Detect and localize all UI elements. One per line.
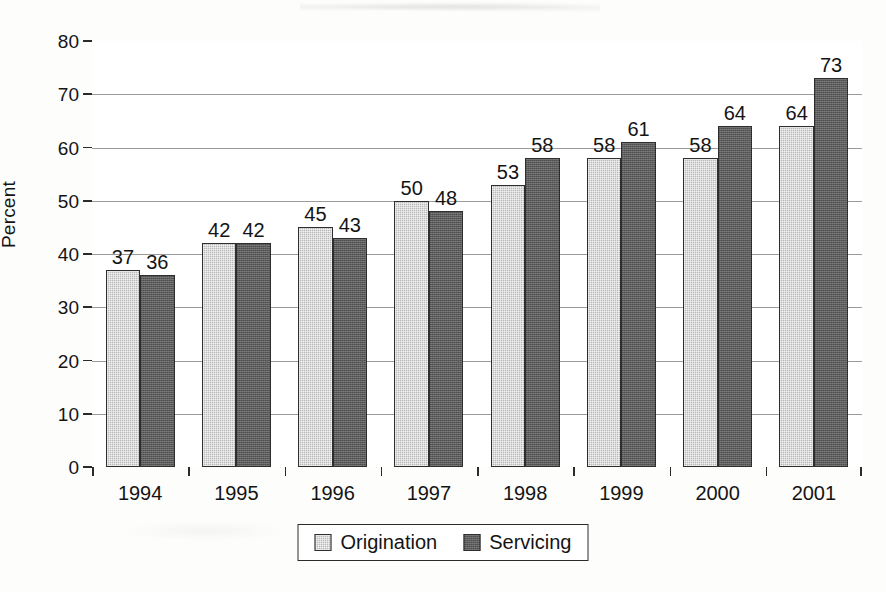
- bar-value-label: 36: [146, 252, 168, 272]
- bar-servicing-1997[interactable]: [429, 211, 463, 467]
- y-axis-tick: [83, 413, 92, 415]
- bar-servicing-1995[interactable]: [236, 243, 270, 467]
- x-axis-tick: [92, 467, 94, 476]
- bar-origination-1996[interactable]: [298, 227, 332, 467]
- bar-servicing-1994[interactable]: [140, 275, 174, 467]
- x-axis-tick-label-2001: 2001: [792, 483, 837, 503]
- legend-swatch-origination-icon: [315, 534, 332, 551]
- x-axis-tick: [477, 467, 479, 476]
- x-axis-tick: [766, 467, 768, 476]
- bar-value-label: 50: [401, 178, 423, 198]
- bar-origination-1998[interactable]: [491, 185, 525, 467]
- bar-origination-1994[interactable]: [106, 270, 140, 467]
- x-axis-tick: [285, 467, 287, 476]
- y-axis-tick: [83, 466, 92, 468]
- x-axis-tick: [381, 467, 383, 476]
- y-axis-tick: [83, 93, 92, 95]
- chart-legend: Origination Servicing: [298, 524, 589, 561]
- y-axis-tick: [83, 360, 92, 362]
- y-axis-tick-label: 40: [58, 245, 79, 264]
- bar-origination-2001[interactable]: [779, 126, 813, 467]
- bar-origination-1999[interactable]: [587, 158, 621, 467]
- plot-area: 0102030405060708037361994424219954543199…: [92, 41, 862, 467]
- bar-servicing-1998[interactable]: [525, 158, 559, 467]
- bar-value-label: 37: [112, 247, 134, 267]
- bar-value-label: 48: [435, 188, 457, 208]
- bar-value-label: 42: [242, 220, 264, 240]
- bar-servicing-2001[interactable]: [814, 78, 848, 467]
- bar-value-label: 45: [304, 204, 326, 224]
- x-axis-tick: [860, 467, 862, 476]
- y-axis-tick: [83, 306, 92, 308]
- scan-artifact-top: [300, 2, 600, 12]
- bar-chart-figure: Percent 01020304050607080373619944242199…: [0, 0, 886, 592]
- x-axis-tick-label-1997: 1997: [407, 483, 452, 503]
- bar-value-label: 43: [339, 215, 361, 235]
- bar-value-label: 64: [786, 103, 808, 123]
- y-axis-tick-label: 30: [58, 298, 79, 317]
- y-axis-tick-label: 80: [58, 32, 79, 51]
- legend-item-origination[interactable]: Origination: [315, 532, 438, 552]
- bar-origination-2000[interactable]: [683, 158, 717, 467]
- bar-value-label: 58: [531, 135, 553, 155]
- bar-value-label: 58: [593, 135, 615, 155]
- x-axis-tick-label-1998: 1998: [503, 483, 548, 503]
- y-axis-tick: [83, 147, 92, 149]
- y-axis-tick-label: 70: [58, 85, 79, 104]
- x-axis-tick: [573, 467, 575, 476]
- bar-origination-1997[interactable]: [394, 201, 428, 467]
- y-axis-tick: [83, 253, 92, 255]
- scan-artifact-bottom: [120, 520, 290, 542]
- x-axis-tick-label-1994: 1994: [118, 483, 163, 503]
- bar-value-label: 58: [689, 135, 711, 155]
- bar-origination-1995[interactable]: [202, 243, 236, 467]
- x-axis-tick: [188, 467, 190, 476]
- y-axis-tick-label: 50: [58, 191, 79, 210]
- x-axis-tick-label-2000: 2000: [695, 483, 740, 503]
- legend-item-servicing[interactable]: Servicing: [463, 532, 571, 552]
- bar-servicing-1996[interactable]: [333, 238, 367, 467]
- x-axis-tick-label-1999: 1999: [599, 483, 644, 503]
- bar-value-label: 61: [627, 119, 649, 139]
- y-axis-tick-label: 20: [58, 351, 79, 370]
- y-gridline: [92, 94, 862, 95]
- y-axis-tick: [83, 40, 92, 42]
- y-axis-tick-label: 10: [58, 404, 79, 423]
- bar-value-label: 64: [724, 103, 746, 123]
- x-axis-tick: [670, 467, 672, 476]
- legend-label-origination: Origination: [341, 532, 438, 552]
- legend-swatch-servicing-icon: [463, 534, 480, 551]
- y-axis-title: Percent: [0, 181, 20, 248]
- bar-servicing-2000[interactable]: [718, 126, 752, 467]
- bar-servicing-1999[interactable]: [621, 142, 655, 467]
- y-axis-tick-label: 60: [58, 138, 79, 157]
- bar-value-label: 42: [208, 220, 230, 240]
- y-axis-tick-label: 0: [68, 458, 79, 477]
- y-axis-tick: [83, 200, 92, 202]
- bar-value-label: 73: [820, 55, 842, 75]
- bar-value-label: 53: [497, 162, 519, 182]
- x-axis-tick-label-1996: 1996: [310, 483, 355, 503]
- legend-label-servicing: Servicing: [489, 532, 571, 552]
- x-axis-tick-label-1995: 1995: [214, 483, 259, 503]
